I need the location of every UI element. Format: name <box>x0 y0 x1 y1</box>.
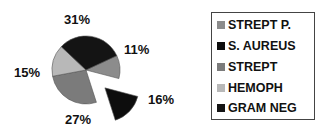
slice-s-aureus <box>105 88 138 120</box>
label-s-aureus: 16% <box>148 92 174 107</box>
legend-item-strept-p: STREPT P. <box>217 17 291 33</box>
legend-item-hemoph: HEMOPH <box>217 80 283 96</box>
swatch-icon <box>217 84 225 92</box>
label-gram-neg: 31% <box>64 12 90 27</box>
legend-item-strept: STREPT <box>217 59 277 75</box>
legend-item-s-aureus: S. AUREUS <box>217 38 296 54</box>
label-strept: 27% <box>65 112 91 127</box>
label-strept-p: 11% <box>124 42 149 57</box>
legend-item-gram-neg: GRAM NEG <box>217 100 297 116</box>
swatch-icon <box>217 104 225 112</box>
chart-legend: STREPT P. S. AUREUS STREPT HEMOPH GRAM N… <box>211 12 315 120</box>
swatch-icon <box>217 21 225 29</box>
swatch-icon <box>217 63 225 71</box>
swatch-icon <box>217 42 225 50</box>
label-hemoph: 15% <box>14 65 40 80</box>
